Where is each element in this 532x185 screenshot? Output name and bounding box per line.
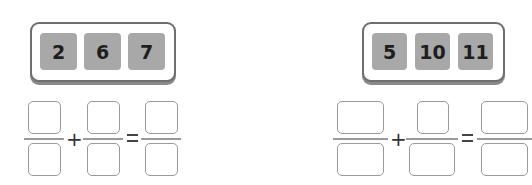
number-card[interactable]: 6	[84, 33, 121, 70]
numerator-box[interactable]	[145, 101, 178, 134]
denominator-box[interactable]	[87, 143, 120, 176]
numerator-box[interactable]	[417, 101, 449, 134]
numerator-box[interactable]	[337, 101, 384, 134]
number-card[interactable]: 2	[40, 33, 77, 70]
number-card[interactable]: 7	[128, 33, 165, 70]
equals-sign	[462, 140, 473, 142]
denominator-box[interactable]	[481, 143, 528, 176]
fraction-line	[83, 138, 123, 140]
denominator-box[interactable]	[337, 143, 384, 176]
numerator-box[interactable]	[481, 101, 528, 134]
fraction-line	[406, 138, 458, 140]
denominator-box[interactable]	[28, 143, 61, 176]
fraction-line	[333, 138, 388, 140]
fraction-line	[141, 138, 181, 140]
number-card[interactable]: 5	[372, 33, 407, 70]
equals-sign	[462, 134, 473, 136]
equals-sign	[127, 134, 138, 136]
denominator-box[interactable]	[409, 143, 455, 176]
equals-sign	[127, 140, 138, 142]
number-card[interactable]: 11	[458, 33, 493, 70]
plus-sign: +	[390, 129, 407, 149]
fraction-line	[477, 138, 532, 140]
numerator-box[interactable]	[87, 101, 120, 134]
number-card[interactable]: 10	[415, 33, 450, 70]
numerator-box[interactable]	[28, 101, 61, 134]
fraction-line	[24, 138, 64, 140]
denominator-box[interactable]	[145, 143, 178, 176]
plus-sign: +	[66, 129, 83, 149]
